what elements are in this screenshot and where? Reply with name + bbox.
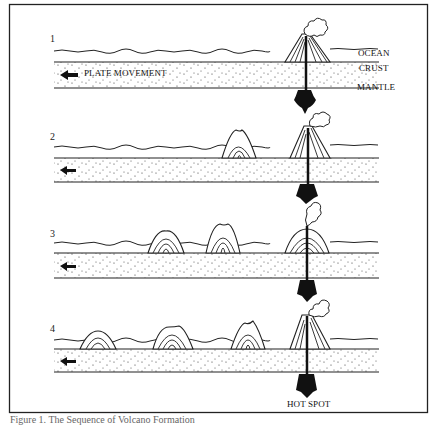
older-volcano <box>153 326 193 349</box>
smoke-plume-icon <box>304 18 328 36</box>
stage-3 <box>54 202 379 302</box>
hot-spot-label: HOT SPOT <box>287 399 330 409</box>
stage-1 <box>54 18 379 114</box>
oldest-volcano <box>148 231 184 253</box>
magma-hot-spot-icon <box>296 184 318 204</box>
old-volcano <box>206 224 240 253</box>
smoke-plume-icon <box>306 202 322 226</box>
old-volcano <box>222 130 256 158</box>
plate-movement-label: PLATE MOVEMENT <box>84 68 167 78</box>
stage-number-3: 3 <box>50 228 55 239</box>
smoke-plume-icon <box>309 300 329 317</box>
stage-number-4: 4 <box>50 323 55 334</box>
old-volcano <box>231 321 265 349</box>
stage-2 <box>54 112 379 204</box>
stage-number-2: 2 <box>50 131 55 142</box>
ocean-label: OCEAN <box>358 48 390 58</box>
smoke-plume-icon <box>309 112 330 127</box>
magma-hot-spot-icon <box>297 280 317 302</box>
stage-4 <box>54 300 379 398</box>
mantle-label: MANTLE <box>357 82 395 92</box>
magma-hot-spot-icon <box>296 374 317 398</box>
figure-caption: Figure 1. The Sequence of Volcano Format… <box>10 414 195 425</box>
stage-number-1: 1 <box>50 33 55 44</box>
magma-hot-spot-icon <box>294 90 316 114</box>
crust-label: CRUST <box>359 63 389 73</box>
ocean-surface <box>54 49 270 53</box>
oldest-volcano <box>80 331 116 349</box>
